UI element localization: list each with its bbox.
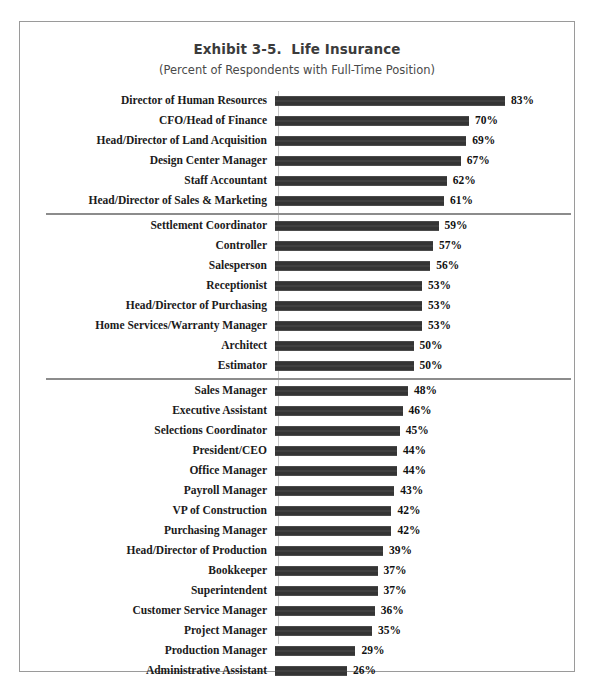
bar [275, 261, 430, 271]
category-label: Head/Director of Purchasing [20, 300, 275, 312]
category-label: Settlement Coordinator [20, 220, 275, 232]
category-label: Architect [20, 340, 275, 352]
bar-row: Controller57% [20, 236, 574, 256]
bar-value-label: 46% [409, 405, 432, 417]
bar [275, 136, 466, 146]
bar-track: 50% [275, 356, 574, 376]
bar-row: Purchasing Manager42% [20, 521, 574, 541]
bar-track: 53% [275, 296, 574, 316]
bar-track: 26% [275, 661, 574, 681]
bar [275, 466, 397, 476]
bar-value-label: 57% [439, 240, 462, 252]
bar-track: 59% [275, 216, 574, 236]
bar-track: 29% [275, 641, 574, 661]
category-label: Estimator [20, 360, 275, 372]
category-label: Selections Coordinator [20, 425, 275, 437]
bar [275, 241, 433, 251]
bar [275, 156, 461, 166]
bar-value-label: 59% [445, 220, 468, 232]
bar-value-label: 26% [353, 665, 376, 677]
bar-value-label: 35% [378, 625, 401, 637]
bar-value-label: 37% [384, 585, 407, 597]
bar-value-label: 61% [450, 195, 473, 207]
bar-value-label: 53% [428, 320, 451, 332]
bar-track: 70% [275, 111, 574, 131]
bar-track: 50% [275, 336, 574, 356]
bar-track: 35% [275, 621, 574, 641]
bar-row: Office Manager44% [20, 461, 574, 481]
bar [275, 96, 505, 106]
plot-area: Director of Human Resources83%CFO/Head o… [20, 91, 574, 681]
bar [275, 301, 422, 311]
bar [275, 341, 414, 351]
category-label: Office Manager [20, 465, 275, 477]
bar-value-label: 44% [403, 465, 426, 477]
bar-value-label: 62% [453, 175, 476, 187]
bar-value-label: 29% [361, 645, 384, 657]
category-label: Head/Director of Sales & Marketing [20, 195, 275, 207]
bar-value-label: 45% [406, 425, 429, 437]
bar-value-label: 42% [397, 525, 420, 537]
bar-track: 53% [275, 276, 574, 296]
bar-list: Director of Human Resources83%CFO/Head o… [20, 91, 574, 681]
bar [275, 486, 394, 496]
category-label: Customer Service Manager [20, 605, 275, 617]
bar-row: Production Manager29% [20, 641, 574, 661]
bar-row: Administrative Assistant26% [20, 661, 574, 681]
category-label: Project Manager [20, 625, 275, 637]
bar-row: CFO/Head of Finance70% [20, 111, 574, 131]
category-label: Receptionist [20, 280, 275, 292]
bar-value-label: 48% [414, 385, 437, 397]
bar-track: 83% [275, 91, 574, 111]
bar [275, 526, 391, 536]
category-label: Production Manager [20, 645, 275, 657]
chart-title-block: Exhibit 3-5. Life Insurance (Percent of … [20, 22, 574, 77]
bar-value-label: 83% [511, 95, 534, 107]
bar-row: Selections Coordinator45% [20, 421, 574, 441]
category-label: Director of Human Resources [20, 95, 275, 107]
category-label: Staff Accountant [20, 175, 275, 187]
bar [275, 606, 375, 616]
bar-value-label: 56% [436, 260, 459, 272]
bar [275, 426, 400, 436]
bar-track: 43% [275, 481, 574, 501]
category-label: Payroll Manager [20, 485, 275, 497]
bar [275, 566, 378, 576]
page-title: Exhibit 3-5. Life Insurance [20, 41, 574, 57]
category-label: VP of Construction [20, 505, 275, 517]
bar-track: 45% [275, 421, 574, 441]
bar-row: Head/Director of Land Acquisition69% [20, 131, 574, 151]
chart-subtitle: (Percent of Respondents with Full-Time P… [20, 63, 574, 77]
bar-row: Receptionist53% [20, 276, 574, 296]
category-label: Purchasing Manager [20, 525, 275, 537]
bar-track: 42% [275, 521, 574, 541]
bar-row: Staff Accountant62% [20, 171, 574, 191]
bar-value-label: 39% [389, 545, 412, 557]
bar [275, 626, 372, 636]
bar [275, 666, 347, 676]
bar-row: Head/Director of Sales & Marketing61% [20, 191, 574, 211]
bar-track: 36% [275, 601, 574, 621]
category-label: CFO/Head of Finance [20, 115, 275, 127]
bar-row: VP of Construction42% [20, 501, 574, 521]
bar-track: 48% [275, 381, 574, 401]
bar-row: Bookkeeper37% [20, 561, 574, 581]
bar-track: 53% [275, 316, 574, 336]
bar-row: Payroll Manager43% [20, 481, 574, 501]
bar [275, 406, 403, 416]
bar [275, 321, 422, 331]
category-label: Sales Manager [20, 385, 275, 397]
bar-row: Project Manager35% [20, 621, 574, 641]
bar-row: Design Center Manager67% [20, 151, 574, 171]
bar-track: 56% [275, 256, 574, 276]
bar-row: Customer Service Manager36% [20, 601, 574, 621]
bar [275, 646, 355, 656]
chart-frame: Exhibit 3-5. Life Insurance (Percent of … [19, 21, 575, 672]
bar [275, 116, 469, 126]
bar-track: 37% [275, 581, 574, 601]
bar [275, 546, 383, 556]
bar-value-label: 69% [472, 135, 495, 147]
category-label: President/CEO [20, 445, 275, 457]
bar-track: 57% [275, 236, 574, 256]
bar-track: 42% [275, 501, 574, 521]
